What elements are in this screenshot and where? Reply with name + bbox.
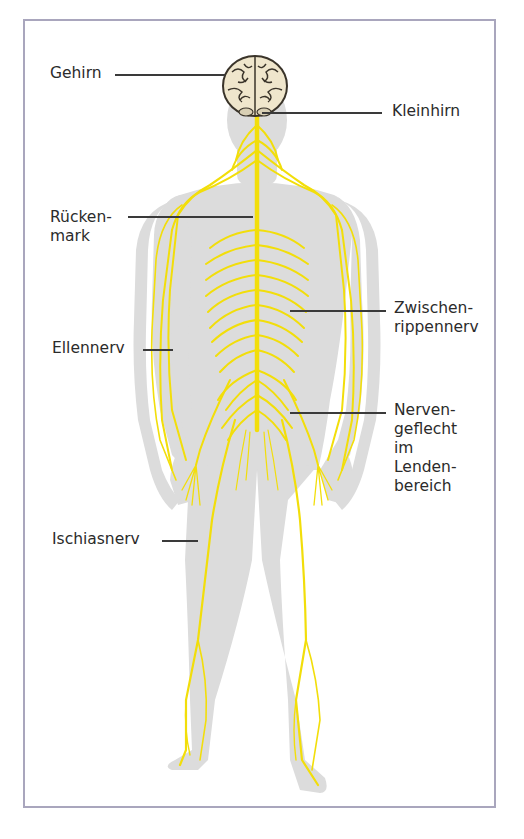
brain [223,56,287,116]
leader-line-ellennerv [143,349,173,351]
label-gehirn: Gehirn [50,64,102,83]
leader-line-rueckenmark [128,216,253,218]
label-rueckenmark: Rücken- mark [50,208,112,246]
leader-line-kleinhirn [262,112,382,114]
leader-line-ischiasnerv [162,540,198,542]
label-nervengeflecht: Nerven- geflecht im Lenden- bereich [394,401,457,496]
leader-line-nervengeflecht [290,412,386,414]
label-ellennerv: Ellennerv [52,339,125,358]
label-zwischenrippennerv: Zwischen- rippennerv [394,299,479,337]
label-ischiasnerv: Ischiasnerv [52,530,140,549]
leader-line-zwischenrippennerv [290,310,386,312]
label-kleinhirn: Kleinhirn [392,102,460,121]
leader-line-gehirn [115,74,225,76]
